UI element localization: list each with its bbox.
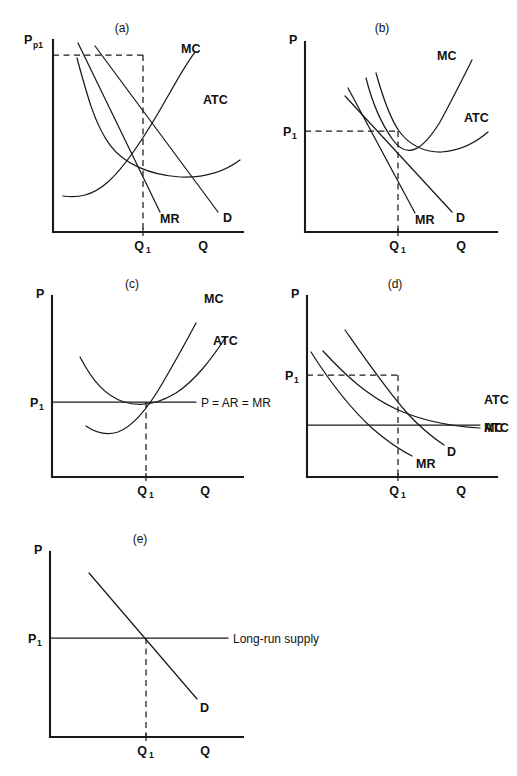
- panel-c-mc-curve: [86, 323, 196, 434]
- panel-d-demand-label: D: [447, 445, 456, 459]
- panel-d-atc-label-top: ATC: [484, 393, 509, 407]
- panel-e-demand-label: D: [200, 701, 209, 715]
- panel-c-p1-sublabel: 1: [39, 402, 44, 412]
- panel-c-atc-curve: [80, 337, 226, 404]
- panel-a-mr-curve: [78, 43, 160, 212]
- panel-b-q1-label: Q: [389, 239, 399, 253]
- panel-d-demand-curve: [345, 330, 444, 445]
- panel-c-price-axis-label: P: [36, 287, 44, 301]
- panel-d-p1-sublabel: 1: [294, 375, 299, 385]
- panel-c-title: (c): [125, 277, 139, 291]
- panel-c-quantity-axis-label: Q: [200, 484, 210, 498]
- panel-c-q1-label: Q: [137, 484, 147, 498]
- panel-d-price-axis-label: P: [291, 287, 299, 301]
- panel-b-p1-label: P: [283, 125, 291, 139]
- panel-b-demand-label: D: [456, 211, 465, 225]
- panel-b-quantity-axis-label: Q: [456, 239, 466, 253]
- panel-a-price-axis-label: P: [24, 33, 32, 47]
- panel-b-price-axis-label: P: [289, 33, 297, 47]
- panel-c-mc-label: MC: [204, 292, 223, 306]
- panel-c-q1-sublabel: 1: [149, 490, 154, 500]
- panel-b-atc-label: ATC: [464, 111, 489, 125]
- panel-d-title: (d): [388, 277, 403, 291]
- panel-e-title: (e): [133, 532, 148, 546]
- panel-a: (a) P p1 Q Q 1 MC ATC D MR: [24, 21, 243, 255]
- panel-a-atc-curve: [77, 58, 240, 177]
- panel-e-q1-sublabel: 1: [149, 750, 154, 760]
- panel-e-quantity-axis-label: Q: [200, 744, 210, 758]
- panel-a-mr-label: MR: [160, 212, 179, 226]
- panel-d-q1-label: Q: [389, 484, 399, 498]
- panel-e-p1-sublabel: 1: [37, 638, 42, 648]
- panel-b-mc-label: MC: [437, 49, 456, 63]
- panel-d-atc-curve: [323, 351, 480, 428]
- panel-c-p1-label: P: [30, 396, 38, 410]
- panel-d-quantity-axis-label: Q: [456, 484, 466, 498]
- panel-b-p1-sublabel: 1: [292, 131, 297, 141]
- panel-d: (d) P Q P 1 Q 1 ATC ATC MC D MR: [285, 277, 509, 500]
- panel-e-demand-curve: [89, 573, 197, 699]
- panel-a-demand-curve: [95, 46, 218, 212]
- panel-c: (c) P Q P 1 Q 1 P = AR = MR MC ATC: [30, 277, 271, 500]
- panel-d-q1-sublabel: 1: [401, 490, 406, 500]
- panel-a-demand-label: D: [223, 211, 232, 225]
- panel-c-price-line-label: P = AR = MR: [201, 396, 271, 410]
- panel-d-p1-label: P: [285, 369, 293, 383]
- panel-d-mr-curve: [311, 352, 412, 456]
- panel-e-price-axis-label: P: [34, 543, 42, 557]
- panel-e-q1-label: Q: [137, 744, 147, 758]
- panel-a-price-axis-sublabel: p1: [33, 40, 43, 50]
- panel-a-q1-label: Q: [134, 239, 144, 253]
- figure-canvas: (a) P p1 Q Q 1 MC ATC D MR (b) P: [0, 0, 517, 776]
- panel-a-mc-curve: [63, 52, 195, 197]
- panel-e-long-run-supply-label: Long-run supply: [233, 632, 319, 646]
- panel-d-mc-label: MC: [484, 421, 503, 435]
- panel-b: (b) P Q P 1 Q 1 MC ATC D MR: [283, 21, 497, 255]
- panel-a-quantity-axis-label: Q: [198, 239, 208, 253]
- panel-a-q1-sublabel: 1: [146, 245, 151, 255]
- panel-e-p1-label: P: [28, 632, 36, 646]
- panel-a-mc-label: MC: [181, 42, 200, 56]
- panel-b-q1-sublabel: 1: [401, 245, 406, 255]
- panel-e: (e) P Q P 1 Q 1 Long-run supply D: [28, 532, 319, 760]
- panel-a-atc-label: ATC: [203, 93, 228, 107]
- panel-b-mr-label: MR: [415, 213, 434, 227]
- panel-a-title: (a): [115, 21, 130, 35]
- panel-c-atc-label: ATC: [213, 334, 238, 348]
- panel-d-mr-label: MR: [416, 457, 435, 471]
- panel-b-title: (b): [375, 21, 390, 35]
- economics-figure: (a) P p1 Q Q 1 MC ATC D MR (b) P: [0, 0, 517, 776]
